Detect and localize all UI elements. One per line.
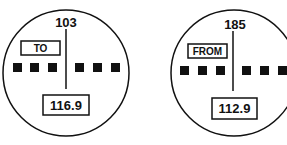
- to-from-flag: FROM: [193, 46, 222, 57]
- vor-diagram: 103 TO 116.9 185 FROM 112.9: [0, 0, 287, 145]
- course-label: 185: [224, 17, 246, 32]
- vor-instrument-right: 185 FROM 112.9: [171, 10, 287, 136]
- frequency-label: 116.9: [50, 98, 82, 113]
- vor-instrument-left: 103 TO 116.9: [3, 10, 129, 136]
- frequency-label: 112.9: [219, 101, 251, 116]
- to-from-flag: TO: [34, 43, 48, 54]
- course-label: 103: [55, 15, 77, 30]
